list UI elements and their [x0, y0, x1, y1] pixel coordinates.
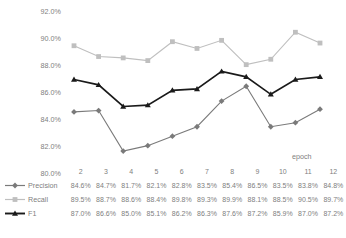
table-cell-value: 85.0%: [119, 206, 144, 220]
table-cell-value: 81.7%: [119, 178, 144, 192]
table-cell-value: 84.8%: [321, 178, 346, 192]
data-point-marker: [12, 182, 18, 188]
table-cell-value: 87.0%: [295, 206, 320, 220]
data-point-marker: [317, 106, 323, 112]
data-point-marker: [72, 43, 77, 48]
y-axis-tick-label: 90.0%: [9, 34, 61, 43]
y-axis-tick-label: 84.0%: [9, 115, 61, 124]
column-header-epoch: 8: [220, 164, 245, 178]
data-point-marker: [195, 46, 200, 51]
table-cell-value: 83.5%: [194, 178, 219, 192]
data-table: 23456789101112 Precision84.6%84.7%81.7%8…: [0, 164, 346, 220]
legend-item-recall[interactable]: Recall: [0, 192, 68, 206]
table-cell-value: 88.6%: [119, 192, 144, 206]
legend-marker-diamond-icon: [4, 181, 26, 190]
table-cell-value: 90.5%: [295, 192, 320, 206]
data-point-marker: [170, 39, 175, 44]
table-cell-value: 86.5%: [245, 178, 270, 192]
table-cell-value: 88.4%: [144, 192, 169, 206]
column-header-epoch: 10: [270, 164, 295, 178]
data-point-marker: [13, 197, 18, 202]
legend-swatch: [4, 181, 26, 190]
table-cell-value: 86.2%: [169, 206, 194, 220]
table-cell-value: 85.4%: [220, 178, 245, 192]
data-point-marker: [293, 120, 299, 126]
table-cell-value: 83.5%: [270, 178, 295, 192]
column-header-epoch: 2: [68, 164, 93, 178]
column-header-epoch: 12: [321, 164, 346, 178]
column-header-epoch: 5: [144, 164, 169, 178]
table-cell-value: 86.3%: [194, 206, 219, 220]
plot-svg: [0, 0, 346, 160]
table-cell-value: 82.1%: [144, 178, 169, 192]
table-cell-value: 86.6%: [93, 206, 118, 220]
table-cell-value: 87.2%: [321, 206, 346, 220]
legend-label: Precision: [28, 181, 58, 190]
x-axis-title: epoch: [292, 152, 312, 161]
data-point-marker: [170, 133, 176, 139]
column-header-epoch: 7: [194, 164, 219, 178]
table-row: Precision84.6%84.7%81.7%82.1%82.8%83.5%8…: [0, 178, 346, 192]
plot-area: [0, 0, 346, 160]
data-point-marker: [318, 41, 323, 46]
table-cell-value: 88.7%: [93, 192, 118, 206]
column-header-epoch: 11: [295, 164, 320, 178]
legend-label: Recall: [28, 195, 48, 204]
table-cell-value: 89.8%: [169, 192, 194, 206]
table-cell-value: 83.8%: [295, 178, 320, 192]
table-row: F187.0%86.6%85.0%85.1%86.2%86.3%87.6%87.…: [0, 206, 346, 220]
data-point-marker: [243, 83, 249, 89]
legend-label: F1: [28, 209, 36, 218]
data-point-marker: [219, 38, 224, 43]
data-point-marker: [293, 30, 298, 35]
data-point-marker: [244, 62, 249, 67]
line-chart: 92.0%90.0%88.0%86.0%84.0%82.0%80.0% epoc…: [0, 0, 346, 238]
legend-marker-square-icon: [4, 195, 26, 204]
table-cell-value: 89.7%: [321, 192, 346, 206]
table-cell-value: 87.6%: [220, 206, 245, 220]
data-point-marker: [96, 54, 101, 59]
table-cell-value: 89.9%: [220, 192, 245, 206]
header-blank: [0, 164, 68, 178]
legend-swatch: [4, 195, 26, 204]
data-point-marker: [121, 56, 126, 61]
legend-item-f1[interactable]: F1: [0, 206, 68, 220]
table-cell-value: 87.2%: [245, 206, 270, 220]
data-point-marker: [96, 108, 102, 114]
table-header-row: 23456789101112: [0, 164, 346, 178]
column-header-epoch: 6: [169, 164, 194, 178]
y-axis-tick-label: 82.0%: [9, 142, 61, 151]
legend-swatch: [4, 209, 26, 218]
legend-marker-triangle-icon: [4, 209, 26, 218]
data-point-marker: [120, 148, 126, 154]
legend-item-precision[interactable]: Precision: [0, 178, 68, 192]
table-cell-value: 88.5%: [270, 192, 295, 206]
table-row: Recall89.5%88.7%88.6%88.4%89.8%89.3%89.9…: [0, 192, 346, 206]
data-point-marker: [268, 124, 274, 130]
data-point-marker: [145, 58, 150, 63]
column-header-epoch: 3: [93, 164, 118, 178]
table-cell-value: 84.7%: [93, 178, 118, 192]
column-header-epoch: 9: [245, 164, 270, 178]
series-f1: [71, 68, 323, 108]
table-cell-value: 85.9%: [270, 206, 295, 220]
y-axis-tick-label: 86.0%: [9, 88, 61, 97]
table-cell-value: 87.0%: [68, 206, 93, 220]
table-cell-value: 88.1%: [245, 192, 270, 206]
data-point-marker: [268, 57, 273, 62]
y-axis-tick-label: 88.0%: [9, 61, 61, 70]
data-point-marker: [71, 109, 77, 115]
table-cell-value: 89.3%: [194, 192, 219, 206]
table-cell-value: 82.8%: [169, 178, 194, 192]
data-point-marker: [145, 143, 151, 149]
table-body: Precision84.6%84.7%81.7%82.1%82.8%83.5%8…: [0, 178, 346, 220]
table-cell-value: 84.6%: [68, 178, 93, 192]
table-cell-value: 85.1%: [144, 206, 169, 220]
table-cell-value: 89.5%: [68, 192, 93, 206]
series-recall: [72, 30, 323, 67]
y-axis-tick-label: 92.0%: [9, 7, 61, 16]
column-header-epoch: 4: [119, 164, 144, 178]
